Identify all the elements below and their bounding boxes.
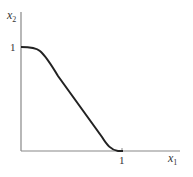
x-tick-label: 1 [119,154,125,166]
y-axis-label: x2 [6,8,16,24]
figure: x2 1 1 x1 [0,0,193,177]
x-axis-label: x1 [167,151,177,167]
curve [21,47,123,151]
y-tick-label: 1 [10,41,16,53]
